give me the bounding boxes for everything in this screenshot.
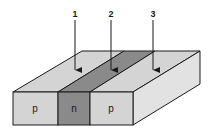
region-label-n: n (71, 103, 77, 114)
region-label-p-left: p (32, 103, 38, 114)
arrow-label-3: 3 (150, 9, 155, 19)
pnp-block-diagram: p n p 1 2 3 (0, 0, 211, 130)
region-label-p-right: p (108, 103, 114, 114)
arrow-label-2: 2 (108, 9, 113, 19)
arrow-label-1: 1 (72, 9, 77, 19)
